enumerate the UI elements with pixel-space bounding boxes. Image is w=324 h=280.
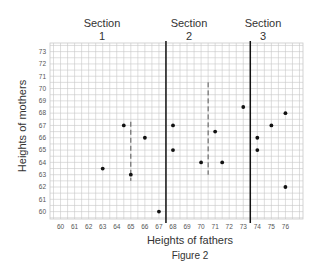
x-tick-label: 61 [71,223,79,230]
data-point [284,185,288,189]
y-tick-label: 65 [39,146,47,153]
x-tick-label: 63 [99,223,107,230]
data-point [101,167,105,171]
y-tick-label: 60 [39,208,47,215]
y-tick-label: 68 [39,109,47,116]
data-point [269,124,273,128]
data-point [284,111,288,115]
x-tick-label: 69 [183,223,191,230]
data-point [255,136,259,140]
y-tick-label: 61 [39,196,47,203]
x-tick-label: 67 [155,223,163,230]
data-point [122,124,126,128]
x-tick-label: 60 [57,223,65,230]
y-tick-label: 64 [39,159,47,166]
data-point [255,148,259,152]
figure-caption: Figure 2 [60,250,320,261]
y-tick-label: 69 [39,97,47,104]
x-tick-label: 74 [254,223,262,230]
data-point [220,160,224,164]
x-tick-label: 68 [169,223,177,230]
data-point [171,148,175,152]
y-tick-label: 72 [39,60,47,67]
x-tick-label: 76 [282,223,290,230]
data-point [171,124,175,128]
x-axis-label: Heights of fathers [60,234,320,246]
x-tick-label: 72 [226,223,234,230]
data-point [129,173,133,177]
y-tick-label: 62 [39,183,47,190]
y-tick-label: 66 [39,134,47,141]
data-point [241,105,245,109]
x-tick-label: 64 [113,223,121,230]
x-tick-label: 71 [212,223,220,230]
x-tick-label: 73 [240,223,248,230]
data-point [157,210,161,214]
y-tick-label: 67 [39,122,47,129]
y-tick-label: 63 [39,171,47,178]
data-point [213,130,217,134]
y-axis-label: Heights of mothers [16,76,28,176]
data-point [199,160,203,164]
y-tick-label: 71 [39,73,47,80]
x-tick-label: 66 [141,223,149,230]
x-tick-label: 75 [268,223,276,230]
y-tick-label: 70 [39,85,47,92]
x-tick-label: 70 [197,223,205,230]
y-tick-label: 73 [39,48,47,55]
x-tick-label: 62 [85,223,93,230]
x-tick-label: 65 [127,223,135,230]
data-point [143,136,147,140]
